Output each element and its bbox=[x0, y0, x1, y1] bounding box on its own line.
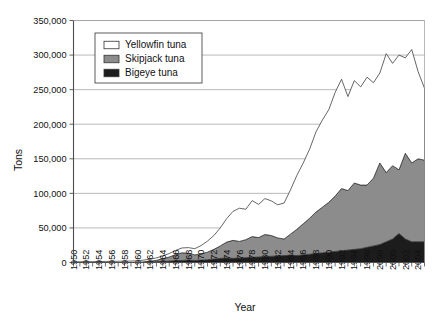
y-tick-label: 200,000 bbox=[33, 120, 66, 130]
x-tick-label: 1958 bbox=[120, 250, 130, 270]
x-tick-label: 1982 bbox=[273, 250, 283, 270]
x-tick-label: 1986 bbox=[298, 250, 308, 270]
x-tick-label: 1956 bbox=[107, 250, 117, 270]
x-tick-label: 1962 bbox=[145, 250, 155, 270]
x-tick-label: 1960 bbox=[133, 250, 143, 270]
x-tick-label: 1984 bbox=[286, 250, 296, 270]
y-axis: 050,000100,000150,000200,000250,000300,0… bbox=[33, 16, 73, 268]
x-tick-label: 1976 bbox=[235, 250, 245, 270]
legend-swatch-yellowfin-tuna bbox=[104, 41, 119, 49]
x-tick-label: 1964 bbox=[158, 250, 168, 270]
tuna-catch-area-chart: 050,000100,000150,000200,000250,000300,0… bbox=[0, 0, 443, 324]
x-axis-title: Year bbox=[234, 301, 256, 313]
x-tick-label: 1996 bbox=[362, 250, 372, 270]
y-tick-label: 300,000 bbox=[33, 50, 66, 60]
x-tick-label: 1972 bbox=[209, 250, 219, 270]
legend-label-skipjack-tuna: Skipjack tuna bbox=[125, 53, 185, 64]
x-tick-label: 2004 bbox=[413, 250, 423, 270]
x-axis: 1950195219541956195819601962196419661968… bbox=[69, 250, 425, 270]
x-tick-label: 1970 bbox=[196, 250, 206, 270]
x-tick-label: 1966 bbox=[171, 250, 181, 270]
y-tick-label: 350,000 bbox=[33, 16, 66, 26]
y-tick-label: 0 bbox=[61, 258, 66, 268]
x-tick-label: 1992 bbox=[337, 250, 347, 270]
y-axis-title: Tons bbox=[12, 149, 24, 171]
y-tick-label: 50,000 bbox=[38, 223, 66, 233]
x-tick-label: 1980 bbox=[260, 250, 270, 270]
legend-label-yellowfin-tuna: Yellowfin tuna bbox=[125, 39, 187, 50]
x-tick-label: 2002 bbox=[401, 250, 411, 270]
x-tick-label: 2098 bbox=[375, 250, 385, 270]
legend-swatch-skipjack-tuna bbox=[104, 55, 119, 63]
x-tick-label: 1994 bbox=[350, 250, 360, 270]
legend-swatch-bigeye-tuna bbox=[104, 69, 119, 77]
legend: Yellowfin tunaSkipjack tunaBigeye tuna bbox=[95, 33, 202, 83]
x-tick-label: 2000 bbox=[388, 250, 398, 270]
x-tick-label: 1952 bbox=[81, 250, 91, 270]
x-tick-label: 1988 bbox=[311, 250, 321, 270]
x-tick-label: 1968 bbox=[184, 250, 194, 270]
y-tick-label: 100,000 bbox=[33, 189, 66, 199]
legend-label-bigeye-tuna: Bigeye tuna bbox=[125, 67, 178, 78]
x-tick-label: 1978 bbox=[247, 250, 257, 270]
y-tick-label: 150,000 bbox=[33, 154, 66, 164]
y-tick-label: 250,000 bbox=[33, 85, 66, 95]
x-tick-label: 1954 bbox=[94, 250, 104, 270]
x-tick-label: 1990 bbox=[324, 250, 334, 270]
x-tick-label: 1974 bbox=[222, 250, 232, 270]
chart-canvas: 050,000100,000150,000200,000250,000300,0… bbox=[0, 0, 443, 324]
